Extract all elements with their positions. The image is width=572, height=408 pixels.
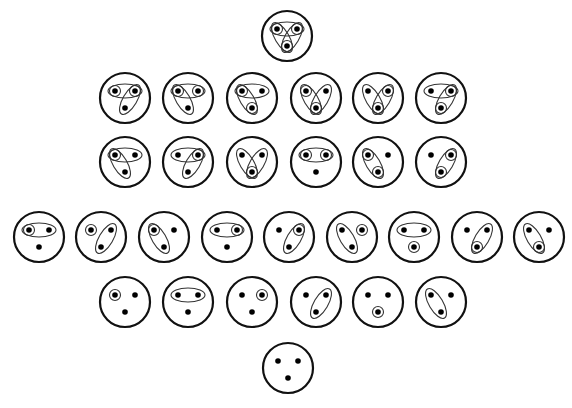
point-dot-L bbox=[428, 88, 434, 94]
set-system-diagram bbox=[100, 137, 150, 187]
set-system-diagram bbox=[291, 277, 341, 327]
outer-circle bbox=[227, 137, 277, 187]
pair-ellipse-LB bbox=[358, 145, 387, 181]
point-dot-B bbox=[375, 169, 381, 175]
set-system-diagram bbox=[264, 212, 314, 262]
point-dot-B bbox=[249, 105, 255, 111]
point-dot-L bbox=[303, 152, 309, 158]
point-dot-L bbox=[428, 292, 434, 298]
outer-circle bbox=[416, 137, 466, 187]
outer-circle bbox=[100, 277, 150, 327]
set-system-diagram bbox=[262, 11, 312, 61]
set-system-diagram bbox=[416, 73, 466, 123]
set-system-diagram bbox=[163, 277, 213, 327]
point-dot-L bbox=[464, 227, 470, 233]
point-dot-L bbox=[365, 292, 371, 298]
set-system-diagram bbox=[263, 343, 313, 393]
point-dot-B bbox=[536, 244, 542, 250]
point-dot-R bbox=[259, 292, 265, 298]
set-system-diagram bbox=[353, 137, 403, 187]
outer-circle bbox=[263, 343, 313, 393]
point-dot-B bbox=[122, 169, 128, 175]
point-dot-B bbox=[375, 105, 381, 111]
set-system-diagram bbox=[327, 212, 377, 262]
point-dot-B bbox=[313, 105, 319, 111]
point-dot-B bbox=[286, 244, 292, 250]
set-system-diagram bbox=[14, 212, 64, 262]
pair-ellipse-RB bbox=[431, 81, 460, 117]
pair-ellipse-RB bbox=[279, 220, 308, 256]
set-system-diagram bbox=[202, 212, 252, 262]
point-dot-R bbox=[195, 152, 201, 158]
set-system-diagram bbox=[416, 137, 466, 187]
point-dot-B bbox=[438, 169, 444, 175]
point-dot-L bbox=[276, 227, 282, 233]
point-dot-B bbox=[438, 309, 444, 315]
point-dot-R bbox=[385, 88, 391, 94]
point-dot-L bbox=[239, 152, 245, 158]
point-dot-R bbox=[359, 227, 365, 233]
point-dot-B bbox=[161, 244, 167, 250]
point-dot-L bbox=[112, 152, 118, 158]
outer-circle bbox=[514, 212, 564, 262]
point-dot-R bbox=[259, 152, 265, 158]
outer-circle bbox=[291, 277, 341, 327]
outer-circle bbox=[264, 212, 314, 262]
point-dot-R bbox=[259, 88, 265, 94]
point-dot-B bbox=[122, 309, 128, 315]
point-dot-L bbox=[175, 292, 181, 298]
point-dot-L bbox=[26, 227, 32, 233]
outer-circle bbox=[76, 212, 126, 262]
point-dot-L bbox=[151, 227, 157, 233]
point-dot-R bbox=[448, 292, 454, 298]
point-dot-B bbox=[98, 244, 104, 250]
point-dot-L bbox=[365, 88, 371, 94]
point-dot-B bbox=[185, 105, 191, 111]
outer-circle bbox=[353, 73, 403, 123]
point-dot-L bbox=[303, 88, 309, 94]
set-system-diagram bbox=[291, 137, 341, 187]
point-dot-R bbox=[132, 88, 138, 94]
point-dot-R bbox=[195, 88, 201, 94]
pair-ellipse-LB bbox=[332, 220, 361, 256]
point-dot-L bbox=[274, 26, 280, 32]
set-system-diagram bbox=[452, 212, 502, 262]
point-dot-B bbox=[313, 169, 319, 175]
point-dot-B bbox=[285, 375, 291, 381]
point-dot-B bbox=[249, 169, 255, 175]
set-system-diagram bbox=[76, 212, 126, 262]
point-dot-L bbox=[275, 358, 281, 364]
point-dot-R bbox=[46, 227, 52, 233]
point-dot-R bbox=[323, 292, 329, 298]
outer-circle bbox=[139, 212, 189, 262]
pair-ellipse-LB bbox=[232, 81, 261, 117]
pair-ellipse-LB bbox=[105, 145, 134, 181]
point-dot-L bbox=[303, 292, 309, 298]
point-dot-L bbox=[526, 227, 532, 233]
point-dot-R bbox=[448, 152, 454, 158]
outer-circle bbox=[291, 73, 341, 123]
set-system-diagram bbox=[514, 212, 564, 262]
diagram-canvas bbox=[0, 0, 572, 408]
point-dot-L bbox=[239, 292, 245, 298]
point-dot-L bbox=[175, 152, 181, 158]
point-dot-L bbox=[88, 227, 94, 233]
point-dot-R bbox=[195, 292, 201, 298]
point-dot-L bbox=[401, 227, 407, 233]
point-dot-R bbox=[546, 227, 552, 233]
point-dot-B bbox=[349, 244, 355, 250]
point-dot-B bbox=[284, 43, 290, 49]
point-dot-L bbox=[365, 152, 371, 158]
outer-circle bbox=[327, 212, 377, 262]
set-system-diagram bbox=[100, 277, 150, 327]
point-dot-R bbox=[132, 152, 138, 158]
point-dot-B bbox=[36, 244, 42, 250]
set-system-diagram bbox=[227, 73, 277, 123]
set-system-diagram bbox=[389, 212, 439, 262]
point-dot-L bbox=[339, 227, 345, 233]
pair-ellipse-LB bbox=[519, 220, 548, 256]
point-dot-L bbox=[239, 88, 245, 94]
point-dot-B bbox=[411, 244, 417, 250]
point-dot-B bbox=[438, 105, 444, 111]
pair-ellipse-LB bbox=[144, 220, 173, 256]
